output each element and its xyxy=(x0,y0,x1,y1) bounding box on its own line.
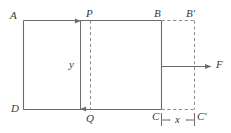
vertex-label-d: D xyxy=(11,103,19,114)
displaced-outline xyxy=(162,21,195,110)
vertex-label-a: A xyxy=(10,10,17,21)
vertex-label-c: C xyxy=(152,111,159,122)
vertex-label-p: P xyxy=(86,8,93,19)
vertex-label-b-prime: B′ xyxy=(186,8,195,19)
dimension-label-y: y xyxy=(69,59,74,70)
force-label-f: F xyxy=(216,59,223,70)
figure-container: A P B B′ D Q C C′ y x F xyxy=(0,0,231,133)
vertex-label-q: Q xyxy=(86,113,94,124)
vertex-label-b: B xyxy=(154,8,161,19)
rectangle-abcd xyxy=(24,21,162,110)
vertex-label-c-prime: C′ xyxy=(197,111,207,122)
dimension-label-x: x xyxy=(175,114,180,125)
